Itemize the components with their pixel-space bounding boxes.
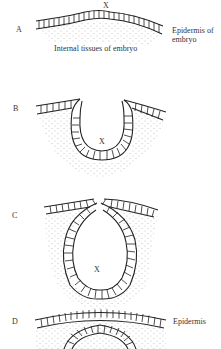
stage-c-drawing (44, 199, 158, 310)
stage-c-internal-tissue (45, 208, 158, 310)
stage-a-label: A (16, 25, 22, 34)
internal-tissues-label: Internal tissues of embryo (54, 44, 137, 53)
epidermis-label: Epidermis (173, 317, 206, 326)
stage-d-drawing (35, 310, 166, 349)
stage-a-drawing (36, 11, 163, 47)
stage-b-x-marker: X (99, 137, 105, 146)
epidermis-of-embryo-label: Epidermis of embryo (172, 26, 221, 44)
stage-c-x-marker: X (94, 265, 100, 274)
stage-c-label: C (12, 211, 17, 220)
embryo-line: embryo (172, 35, 221, 44)
stage-a-internal-tissue (36, 21, 162, 46)
epidermis-of-line: Epidermis of (172, 26, 221, 35)
stage-d-label: D (12, 317, 18, 326)
stage-b-label: B (13, 104, 18, 113)
stage-a-x-marker: X (103, 1, 109, 10)
